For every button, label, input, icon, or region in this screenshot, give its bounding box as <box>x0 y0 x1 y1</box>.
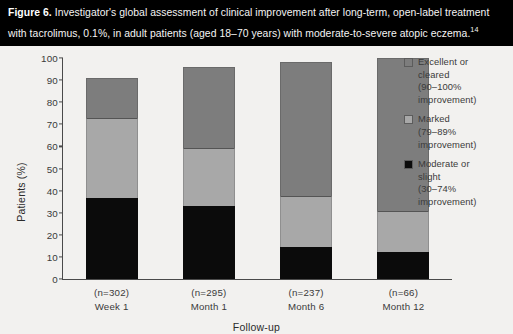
legend-label-line: improvement) <box>418 139 477 152</box>
y-axis-tick-mark <box>59 256 63 257</box>
legend-swatch-icon <box>404 58 413 67</box>
category-label: Month 6 <box>251 300 361 314</box>
legend-label: Marked(79–89%improvement) <box>418 113 477 151</box>
legend-item[interactable]: Moderate orslight(30–74%improvement) <box>404 158 512 208</box>
legend-label-line: improvement) <box>418 196 477 209</box>
group-size-label: (n=66) <box>348 286 458 300</box>
legend-label-line: improvement) <box>418 94 477 107</box>
bar-segment <box>377 252 429 279</box>
figure-caption-text: Figure 6. Investigator's global assessme… <box>8 5 503 42</box>
legend-item[interactable]: Marked(79–89%improvement) <box>404 113 512 151</box>
bar-segment <box>183 148 235 207</box>
legend-label-line: Marked <box>418 113 477 126</box>
legend-label-line: slight <box>418 171 477 184</box>
legend-label-line: Moderate or <box>418 158 477 171</box>
y-axis-tick-mark <box>59 57 63 58</box>
figure-number: Figure 6. <box>8 7 52 18</box>
y-axis-tick-mark <box>59 124 63 125</box>
legend-label: Excellent orcleared(90–100%improvement) <box>418 56 477 106</box>
legend-label: Moderate orslight(30–74%improvement) <box>418 158 477 208</box>
bar-segment <box>377 211 429 253</box>
figure-caption-body: Investigator's global assessment of clin… <box>8 7 489 39</box>
x-axis-tick-label: (n=66)Month 12 <box>348 286 458 313</box>
y-axis-tick-mark <box>59 102 63 103</box>
bar-segment <box>183 67 235 148</box>
bar-segment <box>280 62 332 196</box>
group-size-label: (n=302) <box>57 286 167 300</box>
y-axis-title: Patients (%) <box>15 147 27 237</box>
bar-segment <box>86 118 138 199</box>
figure-caption-bar: Figure 6. Investigator's global assessme… <box>0 0 513 46</box>
y-axis-tick-mark <box>59 190 63 191</box>
chart-legend: Excellent orcleared(90–100%improvement)M… <box>404 56 512 216</box>
legend-swatch-icon <box>404 115 413 124</box>
x-axis-title: Follow-up <box>62 321 451 333</box>
y-axis-tick-mark <box>59 146 63 147</box>
y-axis-tick-mark <box>59 212 63 213</box>
y-axis-tick-mark <box>59 80 63 81</box>
legend-swatch-icon <box>404 160 413 169</box>
legend-label-line: Excellent or <box>418 56 477 69</box>
group-size-label: (n=295) <box>154 286 264 300</box>
bar-segment <box>280 247 332 279</box>
x-axis-tick-label: (n=295)Month 1 <box>154 286 264 313</box>
x-axis-tick-label: (n=237)Month 6 <box>251 286 361 313</box>
legend-label-line: cleared <box>418 69 477 82</box>
y-axis-tick-mark <box>59 168 63 169</box>
legend-label-line: (79–89% <box>418 126 477 139</box>
y-axis-tick-mark <box>59 278 63 279</box>
category-label: Week 1 <box>57 300 167 314</box>
group-size-label: (n=237) <box>251 286 361 300</box>
bar-segment <box>183 206 235 279</box>
category-label: Month 1 <box>154 300 264 314</box>
y-axis-tick-mark <box>59 234 63 235</box>
bar-segment <box>86 198 138 279</box>
chart-area: Patients (%) 0102030405060708090100 (n=3… <box>0 46 513 334</box>
bar-segment <box>280 196 332 247</box>
legend-label-line: (90–100% <box>418 81 477 94</box>
x-axis-tick-label: (n=302)Week 1 <box>57 286 167 313</box>
figure-caption-reference: 14 <box>470 25 478 34</box>
legend-item[interactable]: Excellent orcleared(90–100%improvement) <box>404 56 512 106</box>
bar-segment <box>86 78 138 118</box>
category-label: Month 12 <box>348 300 458 314</box>
legend-label-line: (30–74% <box>418 183 477 196</box>
plot-frame: 0102030405060708090100 (n=302)Week 1(n=2… <box>62 58 452 280</box>
figure-page: Figure 6. Investigator's global assessme… <box>0 0 513 334</box>
